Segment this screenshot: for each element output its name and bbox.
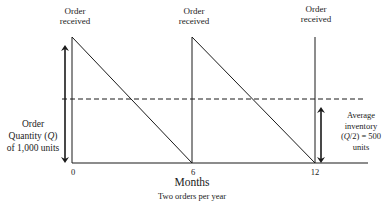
order-received-label-6: Order received — [179, 6, 209, 26]
x-axis-subtitle: Two orders per year — [158, 191, 226, 201]
x-tick-12: 12 — [311, 167, 320, 177]
depletion-line-1 — [72, 37, 192, 163]
order-received-label-0: Order received — [60, 6, 90, 26]
x-tick-0: 0 — [71, 167, 75, 177]
x-axis-title: Months — [174, 176, 209, 188]
average-inventory-label: Average inventory (Q/2) = 500 units — [330, 110, 392, 152]
order-received-label-12: Order received — [301, 4, 331, 24]
depletion-line-2 — [192, 37, 315, 163]
order-quantity-label: Order Quantity (Q) of 1,000 units — [4, 118, 62, 154]
